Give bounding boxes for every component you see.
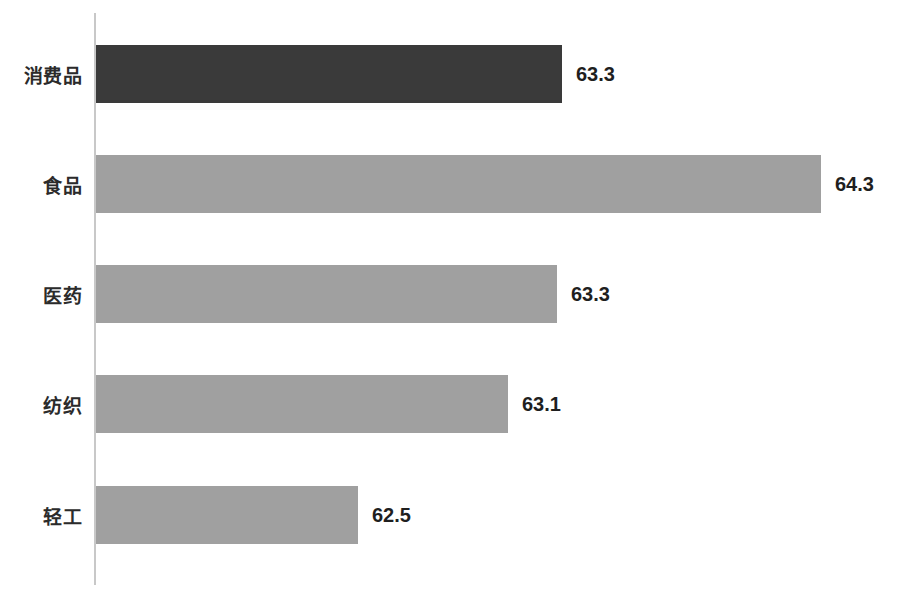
bar-3: [96, 375, 508, 433]
bar-row: 纺织 63.1: [0, 375, 905, 433]
bar-row: 食品 64.3: [0, 155, 905, 213]
category-label-3: 纺织: [0, 375, 82, 433]
bar-4: [96, 486, 358, 544]
bar-1: [96, 155, 821, 213]
bar-0: [96, 45, 562, 103]
category-label-1: 食品: [0, 155, 82, 213]
value-label-3: 63.1: [522, 375, 561, 433]
bar-2: [96, 265, 557, 323]
category-label-4: 轻工: [0, 486, 82, 544]
category-label-2: 医药: [0, 265, 82, 323]
bar-row: 轻工 62.5: [0, 486, 905, 544]
value-label-1: 64.3: [835, 155, 874, 213]
value-label-2: 63.3: [571, 265, 610, 323]
bar-chart: 消费品 63.3 食品 64.3 医药 63.3 纺织 63.1 轻工 62.5: [0, 0, 905, 599]
category-label-0: 消费品: [0, 45, 82, 103]
value-label-4: 62.5: [372, 486, 411, 544]
bar-row: 医药 63.3: [0, 265, 905, 323]
value-label-0: 63.3: [576, 45, 615, 103]
bar-row: 消费品 63.3: [0, 45, 905, 103]
